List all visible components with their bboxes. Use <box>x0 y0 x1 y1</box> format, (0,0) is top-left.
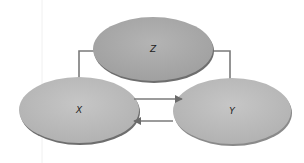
node-x: X <box>19 77 140 145</box>
node-x-label: X <box>75 105 83 115</box>
node-y: Y <box>173 78 292 146</box>
node-z: Z <box>93 17 214 83</box>
causal-diagram: Z X Y <box>0 0 304 163</box>
node-z-label: Z <box>149 44 157 54</box>
